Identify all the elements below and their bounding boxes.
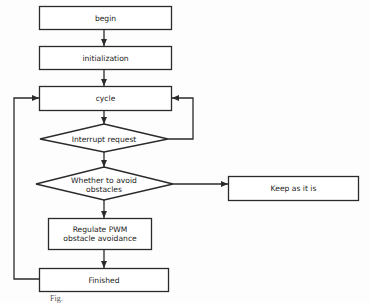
avoid-label: Whether to avoid obstacles (56, 175, 152, 194)
initialization-label: initialization (40, 47, 171, 69)
avoid-label-line1: Whether to avoid (71, 176, 137, 185)
finished-label: Finished (40, 269, 168, 291)
edge-finished-loop (14, 98, 39, 279)
flowchart (0, 0, 370, 303)
page: begin initialization cycle Interrupt req… (0, 0, 370, 303)
cycle-label: cycle (40, 87, 171, 110)
regulate-label-line2: obstacle avoidance (63, 234, 136, 243)
figure-caption: Fig. (50, 294, 63, 303)
keep-label: Keep as it is (229, 177, 358, 200)
avoid-label-line2: obstacles (86, 185, 122, 194)
begin-label: begin (40, 7, 171, 29)
interrupt-label: Interrupt request (60, 133, 148, 145)
regulate-label: Regulate PWM obstacle avoidance (49, 219, 151, 249)
regulate-label-line1: Regulate PWM (73, 225, 128, 234)
